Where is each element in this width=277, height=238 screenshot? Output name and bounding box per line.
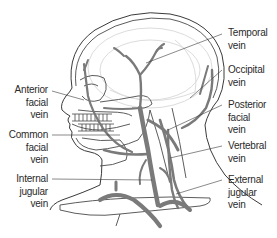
label-common-facial-vein: Common facial vein	[2, 129, 48, 167]
label-anterior-facial-vein: Anterior facial vein	[6, 84, 48, 122]
label-temporal-vein: Temporal vein	[228, 27, 268, 52]
teeth	[72, 114, 114, 131]
face-profile	[50, 88, 102, 210]
label-line: vein	[228, 199, 263, 212]
label-line: jugular	[228, 187, 263, 200]
label-line: vein	[228, 40, 268, 53]
label-line: Occipital	[228, 64, 265, 77]
label-line: vein	[228, 77, 265, 90]
label-line: facial	[228, 112, 266, 125]
label-external-jugular-vein: External jugular vein	[228, 174, 263, 212]
label-line: facial	[2, 142, 48, 155]
label-line: External	[228, 174, 263, 187]
label-line: Internal	[2, 173, 48, 186]
label-line: Common	[2, 129, 48, 142]
label-line: Anterior	[6, 84, 48, 97]
label-posterior-facial-vein: Posterior facial vein	[228, 99, 266, 137]
skull-outline	[75, 18, 218, 98]
label-line: Vertebral	[228, 140, 266, 153]
label-line: vein	[6, 109, 48, 122]
label-line: vein	[2, 154, 48, 167]
label-line: facial	[6, 97, 48, 110]
skull-interior-shading	[88, 28, 212, 108]
label-line: Posterior	[228, 99, 266, 112]
label-line: vein	[2, 198, 48, 211]
label-internal-jugular-vein: Internal jugular vein	[2, 173, 48, 211]
anatomy-diagram: Anterior facial vein Common facial vein …	[0, 0, 277, 238]
label-vertebral-vein: Vertebral vein	[228, 140, 266, 165]
label-line: vein	[228, 124, 266, 137]
label-occipital-vein: Occipital vein	[228, 64, 265, 89]
label-line: jugular	[2, 186, 48, 199]
label-line: Temporal	[228, 27, 268, 40]
label-line: vein	[228, 153, 266, 166]
